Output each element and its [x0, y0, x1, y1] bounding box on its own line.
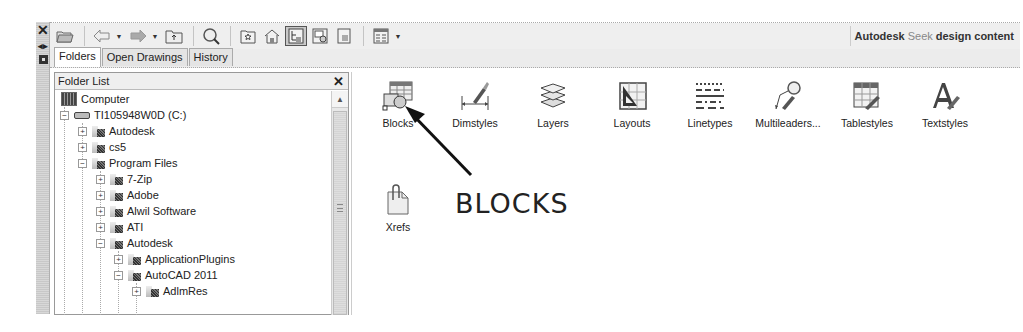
annotation-arrow-icon	[0, 0, 1023, 332]
annotation-label: BLOCKS	[455, 188, 569, 219]
